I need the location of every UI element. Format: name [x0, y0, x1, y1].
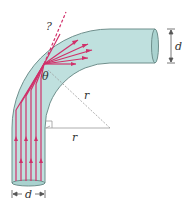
r-diagonal-label: r: [84, 89, 90, 102]
question-label: ?: [46, 20, 52, 33]
d-dimension-right: [167, 29, 175, 63]
bent-light-pipe-diagram: ? θ r r d d: [0, 0, 186, 208]
pipe-bottom-end: [12, 180, 45, 186]
theta-label: θ: [42, 70, 49, 83]
d-bottom-label: d: [25, 188, 32, 201]
pipe-right-end: [152, 29, 159, 63]
r-horizontal-label: r: [72, 131, 78, 144]
d-right-label: d: [175, 40, 182, 53]
